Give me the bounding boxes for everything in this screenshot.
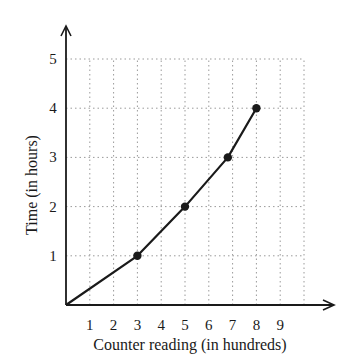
x-tick-label: 5 (181, 317, 189, 333)
y-tick-label: 3 (49, 149, 57, 165)
data-point-marker (252, 104, 260, 112)
data-point-marker (181, 202, 189, 210)
x-tick-label: 1 (86, 317, 94, 333)
grid-lines (66, 59, 304, 305)
x-tick-label: 6 (205, 317, 213, 333)
x-axis-label: Counter reading (in hundreds) (93, 336, 286, 354)
data-point-marker (133, 252, 141, 260)
x-tick-label: 8 (253, 317, 261, 333)
y-tick-label: 4 (49, 100, 57, 116)
x-tick-label: 4 (157, 317, 165, 333)
data-point-marker (224, 153, 232, 161)
y-tick-label: 1 (49, 248, 57, 264)
y-axis-label: Time (in hours) (23, 135, 41, 235)
y-tick-label: 5 (49, 51, 57, 67)
x-tick-label: 7 (229, 317, 237, 333)
x-tick-label: 2 (110, 317, 118, 333)
y-tick-labels: 12345 (49, 51, 57, 264)
data-series (66, 104, 261, 305)
x-tick-labels: 123456789 (86, 317, 284, 333)
chart: 123456789 12345 Counter reading (in hund… (0, 0, 353, 364)
x-tick-label: 9 (276, 317, 284, 333)
x-tick-label: 3 (134, 317, 142, 333)
y-tick-label: 2 (49, 199, 57, 215)
axes (61, 26, 334, 310)
